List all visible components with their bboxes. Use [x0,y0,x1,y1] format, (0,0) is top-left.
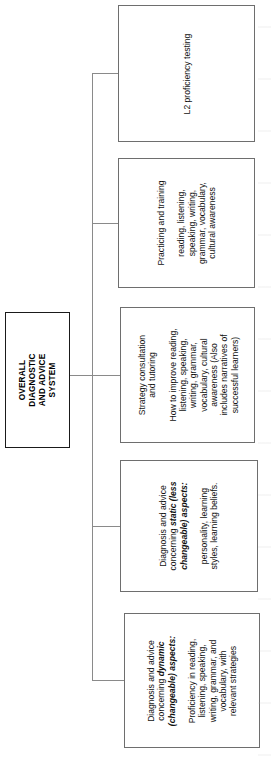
node-heading: Strategy consultation and tutoring [136,335,157,415]
tree-trunk-line [92,73,93,681]
node-strategy-consultation-and-tutoring[interactable]: Strategy consultation and tutoring How t… [120,307,255,443]
node-heading: Diagnosis and advice concerning dynamic … [146,635,177,725]
node-l2-proficiency-testing[interactable]: L2 proficiency testing [118,5,255,142]
node-diagnosis-dynamic-aspects[interactable]: Diagnosis and advice concerning dynamic … [124,613,260,748]
root-node-label: OVERALL DIAGNOSTIC AND ADVICE SYSTEM [18,353,57,406]
branch-line-2 [92,223,119,224]
node-diagnosis-static-aspects[interactable]: Diagnosis and advice concerning static (… [120,460,258,592]
node-overall-diagnostic-and-advice-system[interactable]: OVERALL DIAGNOSTIC AND ADVICE SYSTEM [5,312,70,448]
branch-line-5 [92,680,125,681]
node-heading: L2 proficiency testing [181,33,191,114]
branch-line-4 [92,526,121,527]
branch-line-3 [92,375,121,376]
node-body: Proficiency in reading, listening, speak… [187,638,239,723]
diagram-canvas: OVERALL DIAGNOSTIC AND ADVICE SYSTEM L2 … [0,0,271,763]
node-practicing-and-training[interactable]: Practicing and training reading, listeni… [118,158,255,288]
root-connector-line [70,375,93,376]
node-heading: Practicing and training [156,180,166,265]
node-body: personality, learning styles, learning b… [199,483,220,570]
node-heading: Diagnosis and advice concerning static (… [158,482,189,571]
branch-line-1 [92,73,119,74]
node-body: reading, listening, speaking, writing, g… [176,182,217,264]
node-body: How to improve reading, listening, speak… [167,328,239,421]
